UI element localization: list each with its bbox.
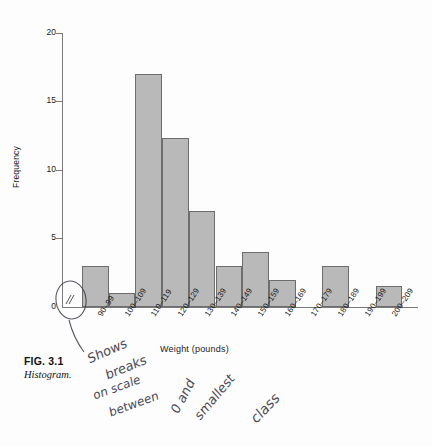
- handwritten-word: class: [248, 389, 282, 427]
- figure-page: 0 5 10 15 20 Frequency 90–99100–109110–1…: [0, 0, 432, 446]
- handwritten-word: smallest: [192, 370, 237, 423]
- handwritten-text-layer: Showsbreakson scalebetween0 andsmallestc…: [0, 0, 432, 446]
